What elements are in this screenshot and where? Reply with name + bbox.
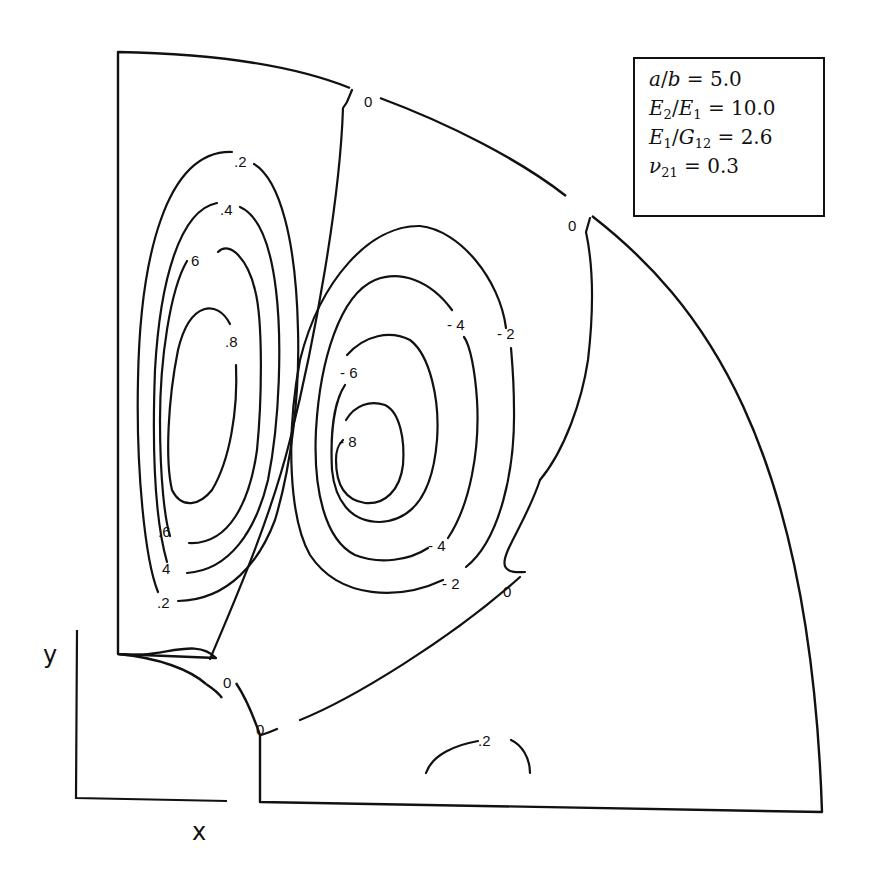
label-pos-06-top: 6 [191, 252, 199, 269]
hole-arc-mid [206, 684, 222, 698]
contour-neg-08 [336, 403, 403, 503]
param-symbol: E [649, 125, 664, 149]
label-zero-top-1: 0 [364, 93, 372, 110]
y-axis-label: y [43, 641, 57, 669]
param-symbol: b [668, 67, 681, 91]
param-shear-ratio: E1/G12 = 2.6 [649, 123, 823, 152]
label-pos-02-bottom: .2 [157, 594, 170, 611]
label-pos-04-bottom: 4 [162, 560, 170, 577]
param-subscript: 21 [661, 165, 678, 180]
param-poisson-ratio: ν21 = 0.3 [649, 152, 823, 181]
param-subscript: 2 [664, 107, 672, 122]
param-value: = 2.6 [711, 125, 772, 149]
label-neg-02-bottom: - 2 [442, 575, 460, 592]
param-separator: / [672, 125, 679, 149]
param-symbol: E [679, 96, 694, 120]
contour-zero-left [210, 90, 352, 659]
contour-neg-02 [291, 226, 514, 593]
param-symbol: E [649, 96, 664, 120]
label-pos-04: .4 [220, 201, 233, 218]
param-subscript: 12 [695, 136, 712, 151]
label-zero-right: 0 [503, 583, 511, 600]
param-aspect-ratio: a/b = 5.0 [649, 65, 823, 94]
param-modulus-ratio: E2/E1 = 10.0 [649, 94, 823, 123]
label-pos-02: .2 [234, 153, 247, 170]
contour-zero-right-edge [540, 218, 592, 480]
label-pos-08: .8 [225, 333, 238, 350]
label-zero-top-2: 0 [568, 217, 576, 234]
parameter-legend-box: a/b = 5.0 E2/E1 = 10.0 E1/G12 = 2.6 ν21 … [633, 57, 825, 217]
param-symbol: a [649, 67, 661, 91]
label-neg-02-top: - 2 [497, 325, 515, 342]
x-axis-label: x [192, 818, 206, 846]
contour-pos-06 [160, 248, 261, 543]
label-neg-08: - 8 [339, 433, 357, 450]
label-neg-04-top: - 4 [447, 316, 465, 333]
label-pos-02-base: .2 [478, 732, 491, 749]
param-value: = 0.3 [678, 154, 739, 178]
param-subscript: 1 [693, 107, 701, 122]
param-subscript: 1 [664, 136, 672, 151]
param-symbol: ν [649, 154, 661, 178]
param-value: = 10.0 [702, 96, 776, 120]
label-neg-06: - 6 [340, 364, 358, 381]
param-symbol: G [679, 125, 695, 149]
param-separator: / [672, 96, 679, 120]
param-value: = 5.0 [681, 67, 742, 91]
hole-arc-upper [118, 654, 206, 684]
label-pos-06-bottom: .6 [158, 523, 171, 540]
label-zero-hole-arc: 0 [223, 674, 231, 691]
param-separator: / [661, 67, 668, 91]
label-neg-04-bottom: - 4 [428, 537, 446, 554]
label-zero-hole-lower: 0 [256, 721, 264, 738]
